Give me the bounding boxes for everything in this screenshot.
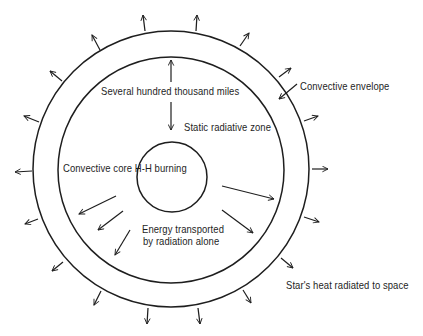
energy-transport-label-line2: by radiation alone: [143, 235, 219, 247]
convective-core-label: Convective core H-H burning: [63, 162, 187, 174]
radiative-zone-label: Static radiative zone: [184, 121, 271, 133]
distance-label: Several hundred thousand miles: [101, 85, 239, 97]
space-radiation-label: Star's heat radiated to space: [286, 279, 409, 291]
convective-core-circle: [137, 142, 207, 212]
convective-envelope-label: Convective envelope: [300, 80, 389, 92]
energy-transport-label-line1: Energy transported: [142, 223, 224, 235]
